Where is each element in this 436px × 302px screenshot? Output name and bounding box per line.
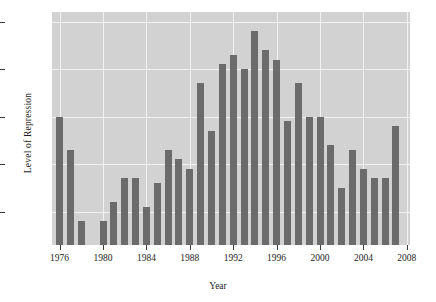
x-tick-label: 1988	[174, 253, 206, 263]
x-tick-mark	[277, 245, 278, 250]
bar	[317, 117, 324, 245]
plot-panel	[52, 12, 410, 245]
bar	[186, 169, 193, 245]
bar	[197, 83, 204, 245]
bar	[100, 221, 107, 245]
bar	[219, 64, 226, 245]
gridline-vertical	[103, 12, 104, 245]
x-tick-label: 1992	[217, 253, 249, 263]
chart-figure: Level of Repression Year 3.43.53.63.73.8…	[0, 0, 436, 302]
bar	[78, 221, 85, 245]
x-axis-label: Year	[0, 281, 436, 291]
bar	[262, 50, 269, 245]
bar	[110, 202, 117, 245]
bar	[121, 178, 128, 245]
x-tick-mark	[190, 245, 191, 250]
x-tick-mark	[320, 245, 321, 250]
bar	[175, 159, 182, 245]
bar	[132, 178, 139, 245]
x-tick-mark	[103, 245, 104, 250]
bar	[241, 69, 248, 245]
bar	[382, 178, 389, 245]
x-tick-label: 2000	[304, 253, 336, 263]
y-tick-mark	[0, 69, 5, 70]
bar	[208, 131, 215, 245]
bar	[273, 60, 280, 245]
y-tick-mark	[0, 22, 5, 23]
bar	[251, 31, 258, 245]
bar	[371, 178, 378, 245]
bar	[295, 83, 302, 245]
x-tick-label: 1996	[261, 253, 293, 263]
x-tick-label: 2008	[391, 253, 423, 263]
bar	[327, 145, 334, 245]
bar	[230, 55, 237, 245]
bar	[143, 207, 150, 245]
y-tick-mark	[0, 212, 5, 213]
x-tick-label: 1980	[87, 253, 119, 263]
bar	[338, 188, 345, 245]
bar	[349, 150, 356, 245]
bar	[360, 169, 367, 245]
bar	[67, 150, 74, 245]
x-tick-mark	[407, 245, 408, 250]
bar	[392, 126, 399, 245]
bar	[165, 150, 172, 245]
gridline-horizontal	[52, 22, 410, 23]
y-tick-mark	[0, 117, 5, 118]
x-tick-mark	[363, 245, 364, 250]
y-tick-mark	[0, 164, 5, 165]
x-tick-label: 2004	[347, 253, 379, 263]
x-tick-mark	[146, 245, 147, 250]
gridline-vertical	[407, 12, 408, 245]
x-tick-mark	[233, 245, 234, 250]
y-axis-label: Level of Repression	[23, 53, 33, 213]
bar	[154, 183, 161, 245]
bar	[56, 117, 63, 245]
x-tick-label: 1984	[130, 253, 162, 263]
x-tick-mark	[60, 245, 61, 250]
x-tick-label: 1976	[44, 253, 76, 263]
bar	[306, 117, 313, 245]
bar	[284, 121, 291, 245]
